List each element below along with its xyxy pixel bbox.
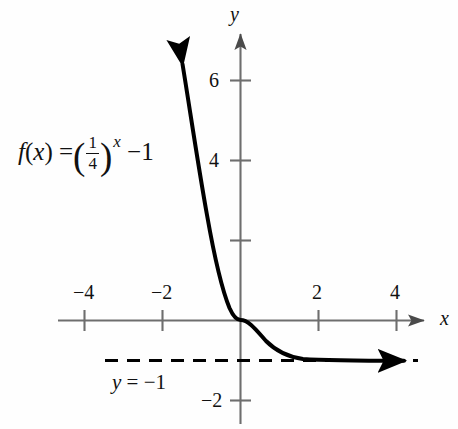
function-close-arg: ) <box>44 138 52 165</box>
function-open-paren: ( <box>73 136 85 177</box>
plot-area <box>0 0 458 429</box>
y-tick-label-4: 4 <box>209 150 219 170</box>
exponent-x: x <box>113 132 121 151</box>
asymptote-label-y: y <box>112 370 121 394</box>
fraction-denominator: 4 <box>86 154 99 173</box>
x-axis-label: x <box>440 308 449 328</box>
function-close-paren: ) <box>100 136 112 177</box>
y-axis-label: y <box>230 4 239 24</box>
x-tick-label-neg2: −2 <box>151 282 172 302</box>
asymptote-label-equals: = <box>127 370 139 394</box>
function-constant: 1 <box>141 138 154 165</box>
y-tick-label-6: 6 <box>209 70 219 90</box>
function-expression-label: f(x) =(14)x −1 <box>18 133 154 175</box>
function-name: f <box>18 138 25 165</box>
fraction-numerator: 1 <box>86 134 99 153</box>
x-tick-label-2: 2 <box>312 282 322 302</box>
exponential-curve <box>183 64 405 361</box>
function-equals-sign: = <box>59 138 73 165</box>
y-tick-label-neg2: −2 <box>201 390 222 410</box>
y-axis <box>230 34 251 424</box>
exponential-graph-figure: f(x) =(14)x −1 y x −4 −2 2 4 6 4 −2 y = … <box>0 0 458 429</box>
base-fraction: 14 <box>86 134 99 173</box>
function-argument: x <box>33 138 44 165</box>
x-tick-label-neg4: −4 <box>73 282 94 302</box>
function-minus-sign: − <box>127 138 141 165</box>
x-tick-label-4: 4 <box>390 282 400 302</box>
asymptote-label-value: −1 <box>144 370 166 394</box>
asymptote-label: y = −1 <box>112 372 166 393</box>
